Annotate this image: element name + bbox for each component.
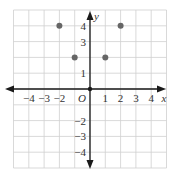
data-point — [72, 54, 78, 60]
x-tick-label: 1 — [103, 92, 109, 104]
x-axis-label: x — [161, 92, 167, 104]
x-tick-label: −3 — [38, 92, 50, 104]
y-tick-label: 3 — [81, 36, 87, 48]
y-tick-label: −2 — [74, 115, 86, 127]
data-point — [102, 54, 108, 60]
x-axis-arrow-left-icon — [5, 86, 14, 93]
data-point — [56, 23, 62, 29]
coordinate-plane: −4−3−21234431−2−3−4 x y O — [0, 0, 172, 186]
data-point — [118, 23, 124, 29]
origin-label: O — [78, 92, 86, 104]
x-tick-label: 2 — [118, 92, 124, 104]
y-tick-label: −4 — [74, 146, 86, 158]
y-axis-label: y — [93, 10, 99, 22]
x-tick-label: 4 — [148, 92, 154, 104]
y-tick-label: 1 — [81, 67, 87, 79]
y-tick-label: 4 — [81, 20, 87, 32]
origin-dot — [88, 87, 92, 91]
y-axis-arrow-up-icon — [87, 11, 94, 20]
x-tick-label: −4 — [23, 92, 35, 104]
x-tick-label: −2 — [54, 92, 66, 104]
x-tick-label: 3 — [133, 92, 139, 104]
y-tick-label: −3 — [74, 130, 86, 142]
